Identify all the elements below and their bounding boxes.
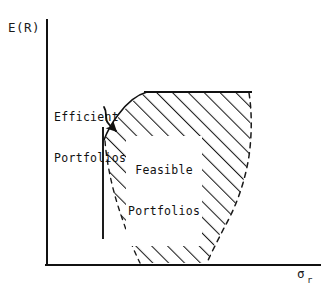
efficient-portfolios-label-line2: Portfolios — [54, 152, 126, 166]
x-axis-label: σ — [297, 266, 305, 281]
efficient-portfolios-label: Efficient Portfolios — [54, 84, 126, 192]
feasible-portfolios-label: Feasible Portfolios — [126, 136, 202, 246]
efficient-portfolios-label-line1: Efficient — [54, 111, 126, 125]
feasible-portfolios-label-line2: Portfolios — [128, 205, 200, 219]
portfolio-diagram: E(R) σ r Efficient Portfolios Feasible P… — [0, 0, 329, 298]
x-axis-label-subscript: r — [307, 275, 312, 285]
feasible-portfolios-label-line1: Feasible — [128, 164, 200, 178]
y-axis-label: E(R) — [8, 20, 40, 35]
